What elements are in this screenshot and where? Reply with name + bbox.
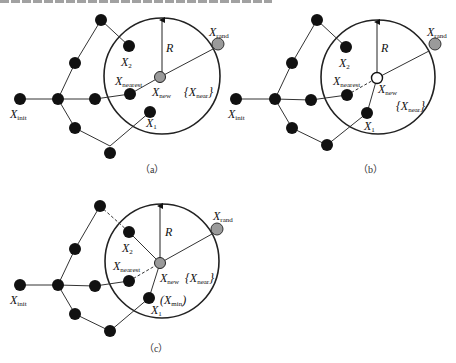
node-xinit [14,93,26,105]
label-x2: X2 [121,241,133,256]
label-radius: R [165,41,174,55]
label-xnear-set: {Xnear} [185,271,214,286]
label-xinit: Xinit [9,107,27,122]
rrt-star-diagram: Xinit X2 Xnearest Xnew {Xnear} X1 Xrand … [0,0,456,363]
label-x1: X1 [363,119,375,134]
label-xrand: Xrand [212,209,233,224]
label-xrand: Xrand [208,25,229,40]
panel-b: Xinit X2 Xnearest Xnew {Xnear} X1 Xrand … [227,14,447,175]
node-xinit [14,279,26,291]
label-x1: X1 [145,116,157,131]
node-xnearest [124,88,136,100]
node-xnew [155,72,166,83]
label-xinit: Xinit [227,107,245,122]
label-x2: X2 [338,56,350,71]
node-x1 [361,107,373,119]
label-xrand: Xrand [426,25,447,40]
node-x2 [123,40,135,52]
node-xnearest [341,89,353,101]
panel-c: Xinit X2 Xnearest Xnew {Xnear} X1 (Xmin)… [9,200,233,354]
label-radius: R [164,225,173,239]
node-xrand [211,223,223,235]
node-xnew [155,258,166,269]
node-xinit [230,93,242,105]
panel-a: Xinit X2 Xnearest Xnew {Xnear} X1 Xrand … [9,14,229,175]
node-x2 [340,41,352,53]
label-xnear-set: {Xnear} [184,85,213,100]
label-xinit: Xinit [9,293,27,308]
node-x2 [123,226,135,238]
label-xnearest: Xnearest [114,74,142,89]
label-xnew: Xnew [377,82,398,97]
label-x2: X2 [120,55,132,70]
label-xnew: Xnew [151,85,172,100]
caption-a: （a） [140,164,164,175]
label-xmin: (Xmin) [160,293,186,308]
label-xnearest: Xnearest [112,259,140,274]
label-xnearest: Xnearest [332,74,360,89]
caption-c: （c） [144,343,168,354]
node-xnearest [123,275,135,287]
label-xnew: Xnew [159,271,180,286]
label-radius: R [380,41,389,55]
caption-b: （b） [358,164,383,175]
label-xnear-set: {Xnear} [396,99,425,114]
